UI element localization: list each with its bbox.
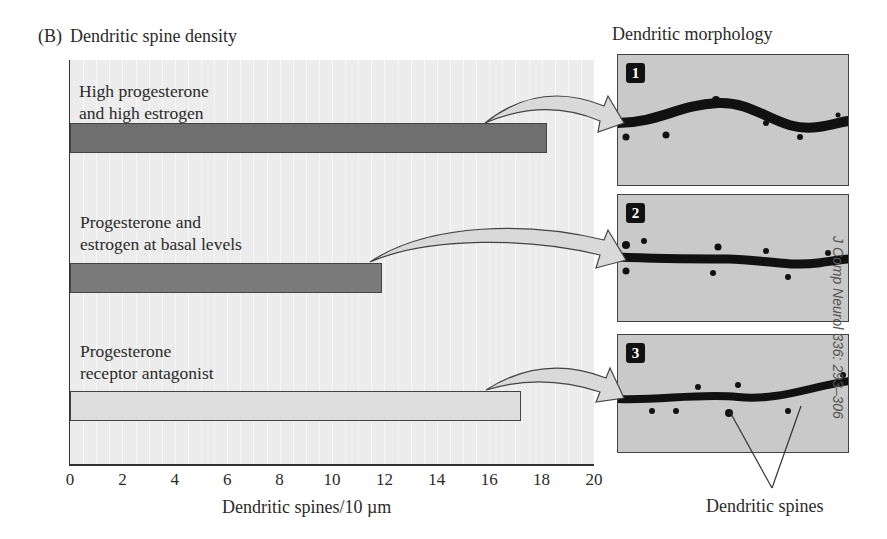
arrow-to-panel-3 <box>486 368 624 402</box>
arrow-to-panel-2 <box>370 228 626 268</box>
spine-pointer-lines <box>730 406 801 488</box>
connector-arrows <box>0 0 887 539</box>
citation: J Comp Neurol 336: 293–306 <box>830 236 846 419</box>
dendritic-spines-label: Dendritic spines <box>706 496 823 517</box>
arrow-to-panel-1 <box>485 96 624 132</box>
